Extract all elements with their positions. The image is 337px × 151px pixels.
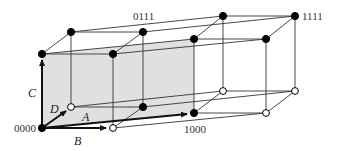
label-c: C xyxy=(28,86,37,100)
node-filled xyxy=(67,28,74,35)
node-filled xyxy=(190,35,197,42)
label-b: B xyxy=(74,134,82,148)
label-a: A xyxy=(81,110,90,124)
node-open xyxy=(220,88,227,95)
tesseract-diagram: 0111 1111 0000 1000 C D A B xyxy=(0,0,337,151)
node-1000 xyxy=(190,109,197,116)
node-0111 xyxy=(139,28,146,35)
node-filled xyxy=(139,103,146,110)
node-1111 xyxy=(291,12,298,19)
node-open xyxy=(110,125,117,132)
label-0111: 0111 xyxy=(133,10,154,22)
node-0000 xyxy=(38,124,45,131)
label-1000: 1000 xyxy=(184,123,207,135)
node-filled xyxy=(219,12,226,19)
label-d: D xyxy=(49,102,59,116)
node-filled xyxy=(262,35,269,42)
label-1111: 1111 xyxy=(302,10,323,22)
node-filled xyxy=(38,50,45,57)
label-0000: 0000 xyxy=(14,122,37,134)
node-open xyxy=(263,110,270,117)
node-filled xyxy=(109,50,116,57)
node-open xyxy=(292,88,299,95)
node-open xyxy=(68,104,75,111)
